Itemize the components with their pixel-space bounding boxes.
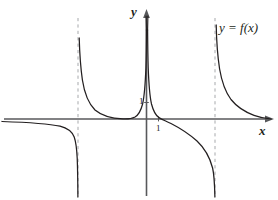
function-graph-figure: y x 1 1 y = f(x) xyxy=(0,0,278,200)
x-axis-label: x xyxy=(259,124,266,137)
x-axis-tick-label-1: 1 xyxy=(156,124,161,133)
curve-branch-far-right xyxy=(216,25,271,119)
curve-branch-left-well xyxy=(79,30,146,119)
curve-branch-right-well xyxy=(148,30,215,197)
curve-branch-far-left xyxy=(2,122,78,198)
y-axis-tick-label-1: 1 xyxy=(139,97,144,106)
y-axis-label: y xyxy=(131,5,137,18)
curve-equation-label: y = f(x) xyxy=(219,21,258,34)
